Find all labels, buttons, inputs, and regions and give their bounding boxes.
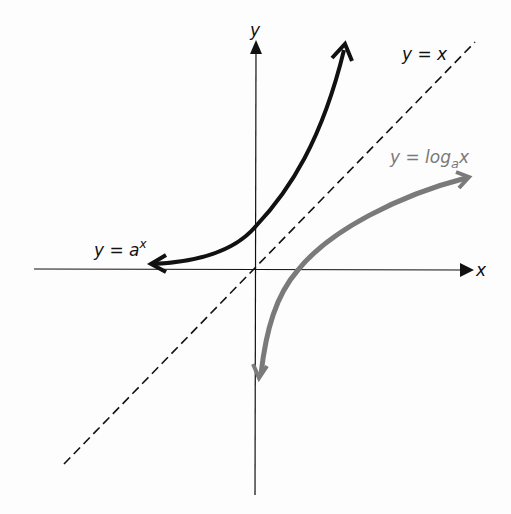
y-axis [255,52,256,495]
y-axis-arrow-icon [250,40,262,54]
y-axis-label: y [249,20,261,40]
exponential-curve [152,50,344,264]
logarithmic-curve [261,178,466,374]
identity-label: y = x [401,44,448,64]
x-axis-label: x [475,260,487,280]
log-label: y = logax [389,147,470,171]
exp-label: y = ax [93,237,148,260]
x-axis [34,269,462,270]
graph-canvas: x y y = x y = ax y = logax [0,0,511,514]
x-axis-arrow-icon [460,263,474,277]
graph-figure: x y y = x y = ax y = logax [0,0,511,514]
